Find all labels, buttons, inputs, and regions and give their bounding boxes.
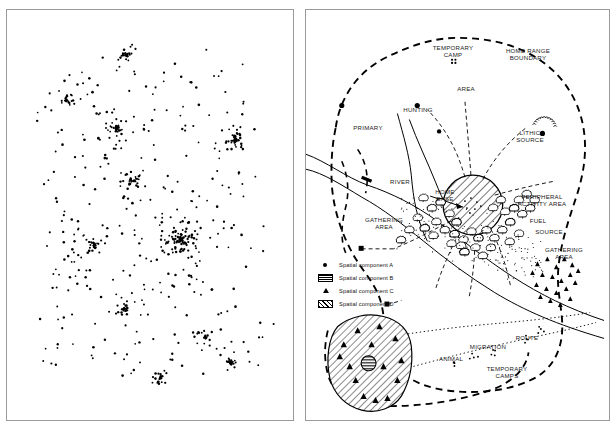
label-area: AREA xyxy=(457,85,475,92)
legend-label-d: Spatial component D xyxy=(339,301,394,307)
label-temporary-camps: TEMPORARYCAMPS xyxy=(487,365,528,379)
label-hunting: HUNTING xyxy=(403,106,433,113)
camp-dot xyxy=(538,326,540,328)
dot-density-panel xyxy=(6,9,294,421)
bush-icon xyxy=(459,236,469,243)
label-fuel: FUEL xyxy=(530,217,547,224)
bush-icon xyxy=(500,208,510,215)
hatched-rect-icon xyxy=(318,300,333,308)
label-primary: PRIMARY xyxy=(353,124,382,131)
legend: Spatial component A Spatial component B … xyxy=(318,258,438,310)
bush-icon xyxy=(440,226,450,233)
bush-icon xyxy=(404,226,414,233)
legend-label-a: Spatial component A xyxy=(339,262,393,268)
camp-dot xyxy=(477,356,479,358)
filled-triangle-icon xyxy=(318,286,333,295)
settlement-model-panel: TEMPORARYCAMP HOME RANGEBOUNDARY AREA HU… xyxy=(305,9,610,421)
label-route: ROUTE xyxy=(516,334,539,341)
camp-dot xyxy=(469,358,471,360)
legend-label-c: Spatial component C xyxy=(339,288,394,294)
bush-icon xyxy=(474,234,484,241)
bush-icon xyxy=(419,194,429,201)
bush-icon xyxy=(445,210,455,217)
triangle-marker xyxy=(576,268,581,273)
camp-dot xyxy=(494,354,496,356)
label-migration: MIGRATION xyxy=(470,343,506,350)
bush-icon xyxy=(413,214,423,221)
label-animal: ANIMAL xyxy=(439,355,463,362)
label-gathering-area-left: GATHERINGAREA xyxy=(365,216,403,230)
triangle-marker xyxy=(530,270,535,275)
bush-icon xyxy=(478,252,488,259)
bush-icon xyxy=(482,226,492,233)
bush-icon xyxy=(497,226,507,233)
label-home-base: HOMEBASE xyxy=(435,188,454,202)
bush-icon xyxy=(452,218,462,225)
bush-icon xyxy=(450,230,460,237)
label-home-range-boundary: HOME RANGEBOUNDARY xyxy=(506,47,550,61)
bush-icon xyxy=(427,204,437,211)
triangle-marker xyxy=(558,302,563,307)
legend-item-c: Spatial component C xyxy=(318,284,438,297)
bush-icon xyxy=(514,230,524,237)
triangle-marker xyxy=(544,286,549,291)
triangle-marker xyxy=(550,274,555,279)
legend-item-b: Spatial component B xyxy=(318,271,438,284)
bush-icon xyxy=(496,196,506,203)
bush-icon xyxy=(420,224,430,231)
bush-icon xyxy=(396,236,406,243)
bush-icon xyxy=(490,234,500,241)
striped-rect-icon xyxy=(318,274,333,282)
triangle-marker xyxy=(534,282,539,287)
bush-icon xyxy=(470,244,480,251)
triangle-marker xyxy=(570,262,575,267)
bush-icon xyxy=(517,210,527,217)
triangle-marker xyxy=(538,294,543,299)
bush-icon xyxy=(467,228,477,235)
triangle-marker xyxy=(564,286,569,291)
label-river: RIVER xyxy=(390,178,410,185)
bush-icon xyxy=(431,218,441,225)
legend-item-d: Spatial component D xyxy=(318,297,438,310)
camp-dot xyxy=(473,357,475,359)
triangle-marker xyxy=(554,264,559,269)
bush-icon xyxy=(488,204,498,211)
label-gathering-area-right: GATHERINGAREA xyxy=(545,246,583,260)
bush-icon xyxy=(429,232,439,239)
figure-root: TEMPORARYCAMP HOME RANGEBOUNDARY AREA HU… xyxy=(0,0,616,429)
dot-density-plot xyxy=(7,10,293,420)
filled-circle-icon xyxy=(318,260,333,269)
label-temporary-camp: TEMPORARYCAMP xyxy=(433,44,474,58)
label-source: SOURCE xyxy=(535,228,563,235)
label-peripheral-activity: PERIPHERALACTIVITY AREA xyxy=(518,193,567,207)
bush-icon xyxy=(505,238,515,245)
label-lithic-source: LITHICSOURCE xyxy=(516,129,544,143)
legend-label-b: Spatial component B xyxy=(339,275,393,281)
triangle-marker xyxy=(568,272,573,277)
camp-dot xyxy=(453,365,455,367)
camp-dot xyxy=(543,330,545,332)
triangle-marker xyxy=(573,280,578,285)
triangle-marker xyxy=(568,296,573,301)
camp-dot xyxy=(540,328,542,330)
camp-dot xyxy=(524,342,526,344)
bush-icon xyxy=(505,218,515,225)
scatter-points xyxy=(36,44,275,385)
legend-item-a: Spatial component A xyxy=(318,258,438,271)
camp-dot xyxy=(471,353,473,355)
triangle-marker xyxy=(559,278,564,283)
camp-dot xyxy=(490,354,492,356)
bush-icon xyxy=(447,240,457,247)
triangle-marker xyxy=(540,272,545,277)
